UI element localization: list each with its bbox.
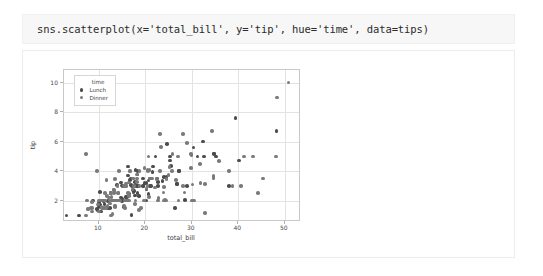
data-point <box>183 198 187 202</box>
x-tick-label: 40 <box>233 224 241 231</box>
y-tick-mark <box>60 200 63 201</box>
data-point <box>123 199 127 203</box>
data-point <box>185 184 189 188</box>
legend-item[interactable]: Dinner <box>80 95 108 101</box>
data-point <box>162 191 166 195</box>
legend-marker-icon <box>80 88 83 91</box>
data-point <box>137 194 141 198</box>
data-point <box>146 184 150 188</box>
data-point <box>158 132 162 136</box>
gridline-vertical <box>285 70 286 220</box>
data-point <box>202 155 206 159</box>
data-point <box>176 155 180 159</box>
data-point <box>65 214 69 218</box>
data-point <box>116 191 120 195</box>
data-point <box>199 181 203 185</box>
y-tick-label: 8 <box>42 108 58 115</box>
gridline-vertical <box>238 70 239 220</box>
data-point <box>108 206 112 210</box>
data-point <box>126 191 130 195</box>
data-point <box>112 188 116 192</box>
output-cell: time LunchDinner 1020304050 246810 total… <box>22 50 515 258</box>
data-point <box>151 165 155 169</box>
data-point <box>104 206 108 210</box>
data-point <box>239 184 243 188</box>
data-point <box>156 180 160 184</box>
data-point <box>274 155 278 159</box>
data-point <box>109 214 113 218</box>
data-point <box>275 129 279 133</box>
data-point <box>189 152 193 156</box>
legend-item-label: Dinner <box>89 95 108 101</box>
data-point <box>165 142 169 146</box>
data-point <box>183 191 187 195</box>
data-point <box>113 177 117 181</box>
data-point <box>162 185 166 189</box>
y-tick-label: 4 <box>42 167 58 174</box>
data-point <box>117 169 121 173</box>
x-tick-label: 50 <box>280 224 288 231</box>
data-point <box>212 174 216 178</box>
data-point <box>77 214 81 218</box>
data-point <box>210 129 214 133</box>
data-point <box>165 177 169 181</box>
y-tick-mark <box>60 111 63 112</box>
legend-entries: LunchDinner <box>80 87 108 101</box>
x-tick-mark <box>98 221 99 224</box>
data-point <box>84 152 88 156</box>
data-point <box>132 184 136 188</box>
data-point <box>130 213 134 217</box>
data-point <box>128 169 132 173</box>
data-point <box>137 208 141 212</box>
data-point <box>192 146 196 150</box>
data-point <box>141 184 145 188</box>
y-tick-mark <box>60 82 63 83</box>
y-axis-label: tip <box>29 141 37 149</box>
x-tick-mark <box>191 221 192 224</box>
data-point <box>212 152 216 156</box>
plot-axes: time LunchDinner <box>63 69 300 221</box>
data-point <box>135 173 139 177</box>
data-point <box>154 155 158 159</box>
data-point <box>153 186 157 190</box>
x-tick-label: 20 <box>140 224 148 231</box>
data-point <box>203 182 207 186</box>
y-tick-label: 2 <box>42 196 58 203</box>
scatterplot-figure: time LunchDinner 1020304050 246810 total… <box>29 57 329 253</box>
data-point <box>151 170 155 174</box>
data-point <box>87 207 91 211</box>
data-point <box>113 205 117 209</box>
data-point <box>123 206 127 210</box>
data-point <box>173 206 177 210</box>
data-point <box>168 159 172 163</box>
data-point <box>126 199 130 203</box>
data-point <box>95 169 99 173</box>
data-point <box>189 166 193 170</box>
x-tick-mark <box>284 221 285 224</box>
data-point <box>191 183 195 187</box>
data-point <box>90 210 94 214</box>
legend-title: time <box>80 79 108 85</box>
legend-item[interactable]: Lunch <box>80 87 108 93</box>
data-point <box>105 178 109 182</box>
gridline-horizontal <box>64 142 299 143</box>
data-point <box>116 184 120 188</box>
data-point <box>146 169 150 173</box>
data-point <box>237 159 241 163</box>
data-point <box>161 179 165 183</box>
y-tick-label: 6 <box>42 137 58 144</box>
data-point <box>196 155 200 159</box>
data-point <box>133 202 137 206</box>
legend[interactable]: time LunchDinner <box>74 75 116 106</box>
data-point <box>175 182 179 186</box>
gridline-horizontal <box>64 112 299 113</box>
code-cell[interactable]: sns.scatterplot(x='total_bill', y='tip',… <box>22 14 515 44</box>
data-point <box>242 155 246 159</box>
code-cell-source: sns.scatterplot(x='total_bill', y='tip',… <box>37 23 429 35</box>
data-point <box>90 200 94 204</box>
gridline-horizontal <box>64 171 299 172</box>
data-point <box>234 116 238 120</box>
data-point <box>198 162 202 166</box>
x-tick-label: 30 <box>187 224 195 231</box>
data-point <box>217 159 221 163</box>
